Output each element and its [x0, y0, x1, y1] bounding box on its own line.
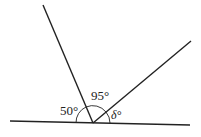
right-ray: [93, 41, 191, 123]
arc-right-angle: [106, 112, 110, 123]
angle-diagram: 50° 95° δ°: [0, 0, 201, 137]
arc-middle-angle: [86, 106, 106, 112]
baseline: [10, 121, 190, 125]
label-50: 50°: [60, 103, 78, 118]
label-delta: δ°: [111, 108, 122, 122]
label-95: 95°: [91, 88, 109, 103]
